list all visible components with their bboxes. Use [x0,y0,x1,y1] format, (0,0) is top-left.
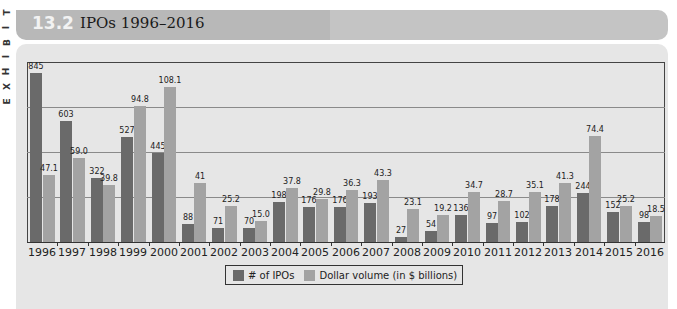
value-label-dollar-volume: 18.5 [641,205,671,214]
bar-ipo-count [30,73,42,242]
x-axis-label: 2002 [209,246,239,259]
x-axis-label: 1998 [88,246,118,259]
x-axis-label: 2004 [270,246,300,259]
value-label-dollar-volume: 108.1 [155,76,185,85]
bar-ipo-count [638,222,650,242]
x-axis-label: 2009 [422,246,452,259]
legend-item-ipos: # of IPOs [233,270,294,281]
x-axis-label: 2003 [240,246,270,259]
bar-dollar-volume [103,185,115,242]
exhibit-letter: H [2,68,11,76]
x-axis-label: 2006 [331,246,361,259]
bar-ipo-count [546,206,558,242]
value-label-dollar-volume: 43.3 [368,169,398,178]
x-axis-label: 2011 [483,246,513,259]
x-axis-label: 1996 [27,246,57,259]
bar-ipo-count [243,228,255,242]
legend-swatch-ipos [233,270,244,281]
x-axis-label: 2008 [392,246,422,259]
value-label-dollar-volume: 25.2 [216,195,246,204]
value-label-dollar-volume: 41.3 [550,172,580,181]
bar-ipo-count [121,137,133,242]
value-label-dollar-volume: 94.8 [125,95,155,104]
bar-ipo-count [577,193,589,242]
bar-ipo-count [607,212,619,242]
x-axis [27,242,665,243]
x-axis-label: 2001 [179,246,209,259]
bar-ipo-count [212,228,224,242]
exhibit-letter: X [2,83,11,90]
bar-ipo-count [486,223,498,242]
x-axis-label: 2013 [543,246,573,259]
value-label-dollar-volume: 28.7 [489,190,519,199]
exhibit-letter: B [3,39,12,46]
bar-dollar-volume [255,221,267,242]
legend-label-volume: Dollar volume (in $ billions) [319,270,457,281]
x-axis-label: 2000 [149,246,179,259]
exhibit-number: 13.2 [32,13,74,33]
bar-dollar-volume [437,215,449,242]
title-bar-extension [330,10,668,40]
value-label-dollar-volume: 34.7 [459,181,489,190]
gridline [27,107,665,108]
bar-ipo-count [395,237,407,242]
value-label-dollar-volume: 74.4 [580,125,610,134]
value-label-dollar-volume: 37.8 [277,177,307,186]
value-label-dollar-volume: 35.1 [520,181,550,190]
bar-ipo-count [182,224,194,242]
value-label-dollar-volume: 36.3 [337,179,367,188]
bar-dollar-volume [194,183,206,242]
bar-dollar-volume [43,175,55,242]
bar-dollar-volume [559,183,571,242]
bar-ipo-count [303,207,315,242]
value-label-dollar-volume: 41 [185,172,215,181]
bar-ipo-count [516,222,528,242]
bar-ipo-count [273,202,285,242]
x-axis-label: 2012 [513,246,543,259]
x-axis-label: 2007 [361,246,391,259]
value-label-ipo-count: 845 [21,62,51,71]
exhibit-letter: I [2,55,11,58]
exhibit-letter: T [2,9,11,15]
exhibit-letter: I [2,26,11,29]
bar-dollar-volume [134,106,146,242]
x-axis-label: 2016 [635,246,665,259]
bar-ipo-count [364,203,376,242]
bar-ipo-count [91,178,103,242]
legend-swatch-volume [304,270,315,281]
value-label-dollar-volume: 59.0 [64,147,94,156]
bar-ipo-count [334,207,346,242]
legend-label-ipos: # of IPOs [248,270,294,281]
value-label-dollar-volume: 25.2 [611,195,641,204]
bar-ipo-count [455,215,467,242]
bar-ipo-count [425,231,437,242]
bar-ipo-count [152,153,164,242]
x-axis-label: 2014 [574,246,604,259]
value-label-dollar-volume: 23.1 [398,198,428,207]
bar-dollar-volume [650,216,662,242]
value-label-dollar-volume: 15.0 [246,210,276,219]
x-axis-label: 2005 [300,246,330,259]
exhibit-letter: E [3,98,12,104]
x-axis-label: 1999 [118,246,148,259]
value-label-ipo-count: 603 [51,110,81,119]
bar-dollar-volume [316,199,328,242]
legend: # of IPOs Dollar volume (in $ billions) [225,265,463,285]
x-axis-label: 2015 [604,246,634,259]
x-axis-label: 1997 [57,246,87,259]
bar-ipo-count [60,121,72,242]
exhibit-side-label: TIBIHXE [0,0,14,112]
x-axis-label: 2010 [452,246,482,259]
bar-dollar-volume [498,201,510,242]
bar-dollar-volume [589,136,601,242]
legend-item-volume: Dollar volume (in $ billions) [304,270,457,281]
value-label-dollar-volume: 39.8 [94,174,124,183]
chart-title: IPOs 1996–2016 [80,14,205,32]
